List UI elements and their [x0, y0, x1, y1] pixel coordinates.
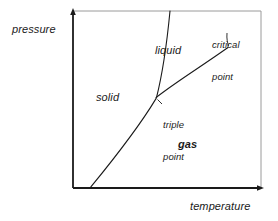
- annotation-triple-point-line2: point: [163, 152, 184, 163]
- region-label-solid: solid: [96, 92, 119, 103]
- x-axis-label: temperature: [190, 201, 250, 212]
- annotation-critical-point-line1: critical: [212, 40, 240, 51]
- annotation-triple-point-line1: triple: [163, 120, 184, 131]
- y-axis-label: pressure: [12, 24, 56, 35]
- phase-diagram-figure: pressure temperature solid liquid gas tr…: [0, 0, 278, 221]
- annotation-critical-point: critical point: [212, 19, 240, 103]
- triple-point-leader: [158, 100, 163, 105]
- region-label-liquid: liquid: [155, 45, 181, 56]
- annotation-critical-point-line2: point: [212, 72, 240, 83]
- annotation-triple-point: triple point: [163, 99, 184, 183]
- sublimation-curve: [90, 99, 156, 188]
